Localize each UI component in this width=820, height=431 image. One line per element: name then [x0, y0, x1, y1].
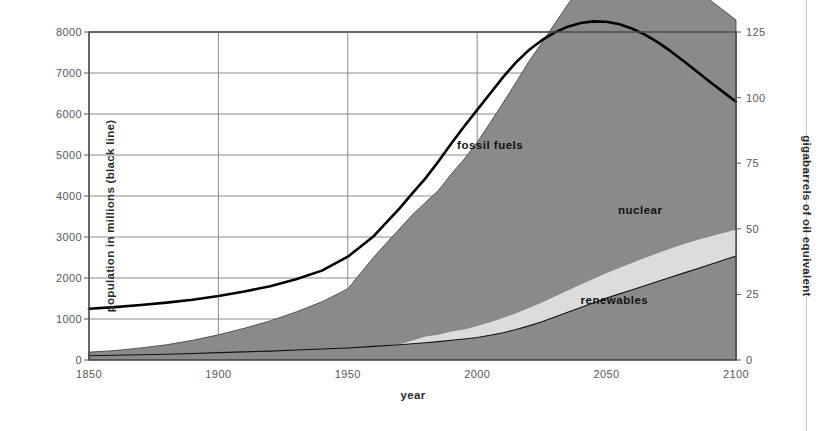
x-axis-tick-label: 2050 [594, 368, 620, 380]
y-axis-left-tick-label: 4000 [36, 190, 82, 202]
y-axis-right-tick-label: 75 [746, 157, 759, 169]
series-label-fossil-fuels: fossil fuels [457, 139, 523, 151]
series-label-renewables: renewables [581, 294, 649, 306]
y-axis-left-tick-label: 1000 [36, 313, 82, 325]
y-axis-left-tick-label: 8000 [36, 26, 82, 38]
x-axis-tick-label: 2000 [464, 368, 490, 380]
x-axis-title: year [401, 389, 426, 401]
y-axis-right-tick-label: 25 [746, 288, 759, 300]
y-axis-left-tick-label: 2000 [36, 272, 82, 284]
y-axis-right-tick-label: 0 [746, 354, 753, 366]
x-axis-tick-label: 2100 [723, 368, 749, 380]
y-axis-left-tick-label: 7000 [36, 67, 82, 79]
y-axis-right-tick-label: 50 [746, 223, 759, 235]
y-axis-right-title: gigabarrels of oil equivalent [801, 135, 813, 296]
x-axis-tick-label: 1850 [76, 368, 102, 380]
x-axis-tick-label: 1900 [205, 368, 231, 380]
population-energy-chart-figure: population in millions (black line) giga… [0, 0, 820, 431]
y-axis-left-tick-label: 6000 [36, 108, 82, 120]
y-axis-right-tick-label: 125 [746, 26, 766, 38]
series-label-nuclear: nuclear [618, 204, 662, 216]
y-axis-left-title: population in millions (black line) [104, 119, 116, 312]
chart-plot-svg [0, 0, 820, 431]
y-axis-left-tick-label: 5000 [36, 149, 82, 161]
y-axis-left-tick-label: 3000 [36, 231, 82, 243]
y-axis-left-tick-label: 0 [36, 354, 82, 366]
x-axis-tick-label: 1950 [335, 368, 361, 380]
y-axis-right-tick-label: 100 [746, 92, 766, 104]
